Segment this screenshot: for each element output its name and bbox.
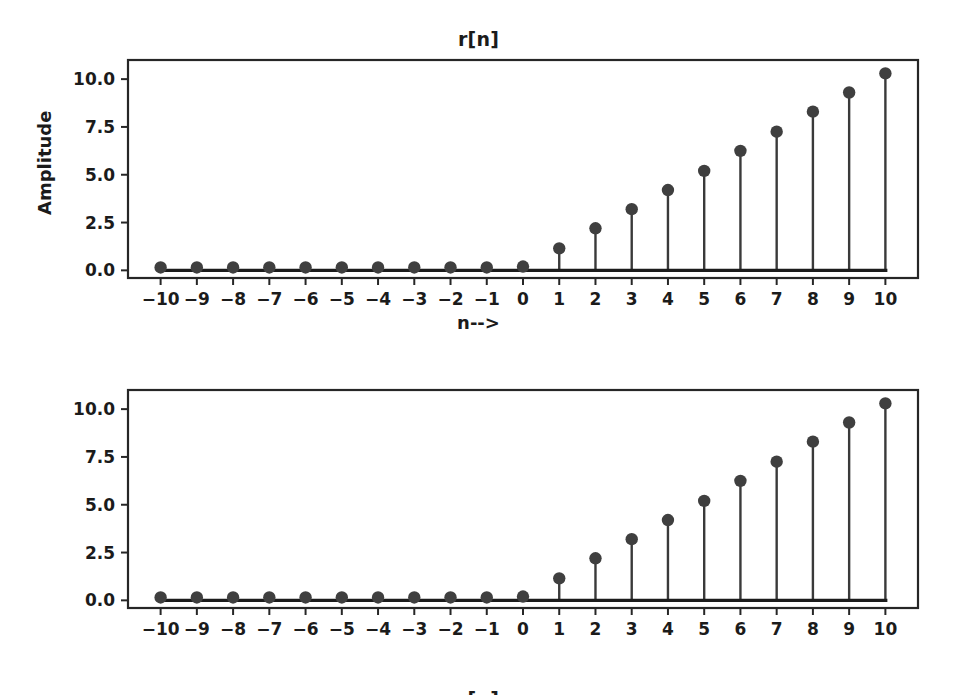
data-point-marker <box>626 203 638 215</box>
x-tick-label: 9 <box>843 619 855 639</box>
stem-plot-figure-1: r[n] Amplitude 0.02.55.07.510.0−10−9−8−7… <box>0 0 957 348</box>
data-point-marker <box>372 591 384 603</box>
data-point-marker <box>626 533 638 545</box>
data-point-marker <box>843 86 855 98</box>
x-tick-label: −2 <box>437 289 463 309</box>
data-point-marker <box>843 416 855 428</box>
x-tick-label: −10 <box>142 289 180 309</box>
x-tick-label: 1 <box>553 619 565 639</box>
plot-frame <box>128 60 918 278</box>
data-point-marker <box>807 435 819 447</box>
data-point-marker <box>299 261 311 273</box>
data-point-marker <box>408 261 420 273</box>
x-tick-label: 8 <box>807 619 819 639</box>
data-point-marker <box>879 397 891 409</box>
data-point-marker <box>662 184 674 196</box>
data-point-marker <box>734 475 746 487</box>
data-point-marker <box>807 105 819 117</box>
x-tick-label: −8 <box>220 289 246 309</box>
data-point-marker <box>879 67 891 79</box>
data-point-marker <box>481 591 493 603</box>
y-tick-label: 2.5 <box>85 543 115 563</box>
x-tick-label: 4 <box>662 289 674 309</box>
x-tick-label: 9 <box>843 289 855 309</box>
x-tick-label: −8 <box>220 619 246 639</box>
x-tick-label: −4 <box>365 619 391 639</box>
x-tick-label: −1 <box>474 619 500 639</box>
x-tick-label: 2 <box>590 619 602 639</box>
data-point-marker <box>227 261 239 273</box>
x-tick-label: −3 <box>401 619 427 639</box>
plot-axes-1: 0.02.55.07.510.0−10−9−8−7−6−5−4−3−2−1012… <box>0 0 957 348</box>
y-tick-label: 10.0 <box>73 399 115 419</box>
x-tick-label: 8 <box>807 289 819 309</box>
data-point-marker <box>517 590 529 602</box>
x-tick-label: −9 <box>184 289 210 309</box>
data-point-marker <box>553 572 565 584</box>
x-tick-label: 2 <box>590 289 602 309</box>
x-tick-label: 10 <box>874 619 898 639</box>
x-tick-label: −3 <box>401 289 427 309</box>
x-tick-label: 7 <box>771 619 783 639</box>
x-tick-label: 10 <box>874 289 898 309</box>
x-tick-label: 0 <box>517 619 529 639</box>
y-tick-label: 5.0 <box>85 495 115 515</box>
data-point-marker <box>336 591 348 603</box>
data-point-marker <box>299 591 311 603</box>
figure-page: r[n] Amplitude 0.02.55.07.510.0−10−9−8−7… <box>0 0 957 695</box>
y-tick-label: 2.5 <box>85 213 115 233</box>
x-tick-label: 4 <box>662 619 674 639</box>
data-point-marker <box>372 261 384 273</box>
x-tick-label: 0 <box>517 289 529 309</box>
x-tick-label: −5 <box>329 289 355 309</box>
y-tick-label: 0.0 <box>85 590 115 610</box>
x-tick-label: −7 <box>256 619 282 639</box>
y-tick-label: 7.5 <box>85 447 115 467</box>
data-point-marker <box>336 261 348 273</box>
data-point-marker <box>444 261 456 273</box>
y-tick-label: 10.0 <box>73 69 115 89</box>
x-tick-label: −2 <box>437 619 463 639</box>
data-point-marker <box>698 165 710 177</box>
x-tick-label: −4 <box>365 289 391 309</box>
data-point-marker <box>662 514 674 526</box>
data-point-marker <box>444 591 456 603</box>
data-point-marker <box>154 261 166 273</box>
plot-axes-2: 0.02.55.07.510.0−10−9−8−7−6−5−4−3−2−1012… <box>0 330 957 695</box>
x-tick-label: 5 <box>698 619 710 639</box>
x-tick-label: 3 <box>626 619 638 639</box>
data-point-marker <box>227 591 239 603</box>
data-point-marker <box>517 260 529 272</box>
x-tick-label: −10 <box>142 619 180 639</box>
data-point-marker <box>553 242 565 254</box>
data-point-marker <box>589 222 601 234</box>
x-tick-label: −6 <box>293 619 319 639</box>
x-tick-label: 3 <box>626 289 638 309</box>
x-tick-label: 6 <box>735 289 747 309</box>
x-tick-label: −7 <box>256 289 282 309</box>
x-tick-label: −5 <box>329 619 355 639</box>
data-point-marker <box>408 591 420 603</box>
data-point-marker <box>770 126 782 138</box>
data-point-marker <box>770 456 782 468</box>
plot-frame <box>128 390 918 608</box>
y-tick-label: 0.0 <box>85 260 115 280</box>
data-point-marker <box>698 495 710 507</box>
x-tick-label: −6 <box>293 289 319 309</box>
data-point-marker <box>589 552 601 564</box>
data-point-marker <box>734 145 746 157</box>
data-point-marker <box>263 591 275 603</box>
x-tick-label: 1 <box>553 289 565 309</box>
data-point-marker <box>191 591 203 603</box>
y-tick-label: 7.5 <box>85 117 115 137</box>
y-tick-label: 5.0 <box>85 165 115 185</box>
x-tick-label: −9 <box>184 619 210 639</box>
x-tick-label: 6 <box>735 619 747 639</box>
stem-plot-figure-2: r[n] Amplitude 0.02.55.07.510.0−10−9−8−7… <box>0 330 957 695</box>
data-point-marker <box>191 261 203 273</box>
data-point-marker <box>481 261 493 273</box>
x-tick-label: −1 <box>474 289 500 309</box>
x-tick-label: 5 <box>698 289 710 309</box>
data-point-marker <box>154 591 166 603</box>
data-point-marker <box>263 261 275 273</box>
